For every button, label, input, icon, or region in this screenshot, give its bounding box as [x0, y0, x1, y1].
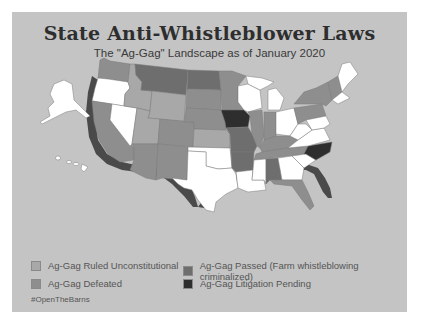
state-new-mexico[interactable]: [156, 144, 188, 180]
state-montana[interactable]: [135, 64, 188, 95]
legend-swatch-icon: [31, 279, 41, 289]
state-arkansas[interactable]: [231, 152, 254, 172]
state-colorado[interactable]: [158, 119, 194, 147]
page-title: State Anti-Whistleblower Laws: [12, 22, 407, 44]
state-alaska[interactable]: [40, 80, 90, 124]
state-florida[interactable]: [270, 180, 314, 210]
legend-label: Ag-Gag Litigation Pending: [200, 278, 311, 289]
legend-label: Ag-Gag Defeated: [48, 278, 122, 289]
hashtag: #OpenTheBarns: [31, 295, 90, 304]
state-new-york[interactable]: [294, 82, 332, 106]
legend-item-defeated: Ag-Gag Defeated: [31, 278, 122, 289]
state-mississippi[interactable]: [252, 159, 266, 184]
legend-swatch-icon: [183, 266, 193, 276]
legend-label: Ag-Gag Ruled Unconstitutional: [48, 260, 178, 271]
legend-item-litigation-pending: Ag-Gag Litigation Pending: [183, 278, 311, 289]
state-north-dakota[interactable]: [187, 70, 221, 90]
infographic-panel: State Anti-Whistleblower Laws The "Ag-Ga…: [12, 12, 407, 312]
state-south-dakota[interactable]: [186, 89, 221, 110]
state-arizona[interactable]: [130, 144, 158, 180]
state-wyoming[interactable]: [148, 91, 186, 122]
state-hawaii[interactable]: [56, 156, 89, 172]
page-subtitle: The "Ag-Gag" Landscape as of January 202…: [12, 47, 407, 59]
state-kansas[interactable]: [193, 129, 230, 148]
state-indiana[interactable]: [264, 112, 276, 140]
legend-swatch-icon: [183, 279, 193, 289]
legend-item-ruled-unconstitutional: Ag-Gag Ruled Unconstitutional: [31, 260, 178, 271]
legend-swatch-icon: [31, 261, 41, 271]
state-maine[interactable]: [338, 62, 358, 92]
state-iowa[interactable]: [221, 110, 250, 128]
